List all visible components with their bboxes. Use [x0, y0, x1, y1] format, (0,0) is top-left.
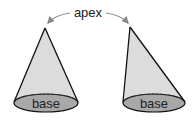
- apex-annotation: apex: [48, 5, 128, 23]
- apex-label: apex: [74, 5, 103, 20]
- right-cone: base: [14, 28, 78, 112]
- base-label: base: [140, 96, 168, 111]
- cone-diagram: base base apex: [0, 0, 195, 127]
- arrow-right-icon: [106, 13, 128, 23]
- oblique-cone: base: [123, 27, 185, 112]
- arrow-left-icon: [48, 13, 70, 23]
- base-label: base: [32, 96, 60, 111]
